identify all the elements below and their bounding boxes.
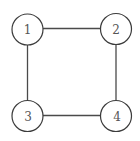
node-3: 3 — [12, 101, 43, 132]
graph-diagram: 1 2 3 4 — [0, 0, 140, 141]
node-1-label: 1 — [24, 23, 32, 37]
node-2: 2 — [101, 14, 132, 45]
node-1: 1 — [12, 14, 43, 45]
node-3-label: 3 — [24, 110, 32, 124]
node-4-label: 4 — [113, 110, 121, 124]
edges — [28, 29, 117, 116]
node-4: 4 — [101, 101, 132, 132]
node-2-label: 2 — [112, 23, 120, 37]
